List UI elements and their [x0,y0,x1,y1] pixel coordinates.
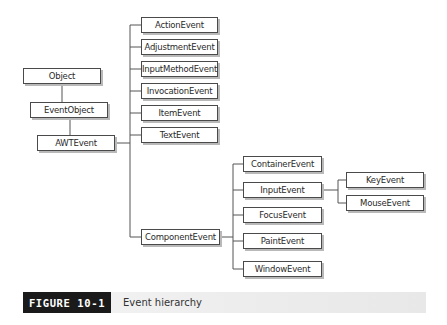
node-focus-event: FocusEvent [243,207,322,223]
node-text-event: TextEvent [141,127,218,143]
connector-lines [0,0,447,325]
node-item-event: ItemEvent [141,105,218,121]
node-awt-event: AWTEvent [37,135,115,151]
node-action-event: ActionEvent [141,17,218,33]
node-window-event: WindowEvent [243,261,322,277]
node-input-method-event: InputMethodEvent [141,61,218,77]
figure-label: FIGURE 10-1 [23,292,111,313]
node-paint-event: PaintEvent [243,233,322,249]
node-invocation-event: InvocationEvent [141,83,218,99]
node-component-event: ComponentEvent [141,229,220,245]
node-event-object: EventObject [30,102,108,118]
node-mouse-event: MouseEvent [346,195,424,211]
node-object: Object [23,68,101,84]
node-key-event: KeyEvent [346,172,424,188]
figure-caption: Event hierarchy [123,292,202,313]
node-container-event: ContainerEvent [243,156,322,172]
node-adjustment-event: AdjustmentEvent [141,39,218,55]
node-input-event: InputEvent [243,182,322,198]
